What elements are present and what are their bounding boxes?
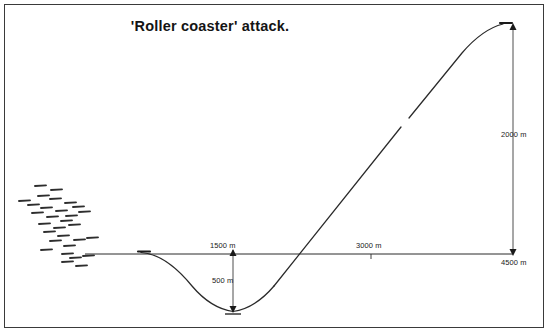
label-depth-below-horizon: 500 m [212, 276, 233, 285]
flight-profile-plot [0, 0, 548, 332]
roller-coaster-attack-figure: 'Roller coaster' attack. [0, 0, 548, 332]
dimension-arrowhead-down-icon [230, 306, 237, 313]
label-climb-height: 2000 m [501, 130, 527, 139]
label-midpoint-distance: 3000 m [356, 241, 382, 250]
label-total-range: 4500 m [501, 258, 527, 267]
flight-path-climb-upper [409, 24, 503, 118]
dimension-arrowhead-horizon-icon [510, 249, 517, 256]
flight-path-descent [141, 253, 274, 312]
label-altitude-above-horizon: 1500 m [210, 241, 236, 250]
dimension-arrowhead-up-icon [230, 249, 237, 256]
flight-path-climb-lower [274, 127, 401, 286]
